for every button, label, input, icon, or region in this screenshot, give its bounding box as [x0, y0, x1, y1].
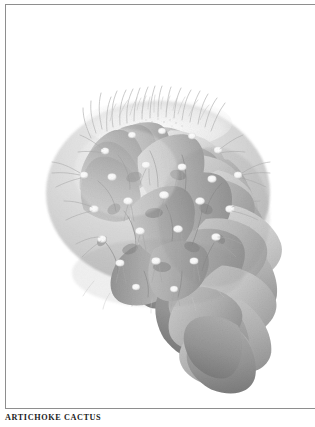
areole: [132, 284, 140, 290]
areole: [116, 260, 124, 267]
frame-rule-bottom: [5, 408, 315, 409]
areole: [80, 172, 88, 178]
plate-caption: ARTICHOKE CACTUS: [5, 413, 305, 423]
artichoke-cactus-drawing: [6, 5, 314, 407]
areole: [195, 197, 204, 204]
areole: [135, 227, 144, 234]
areole: [188, 133, 196, 139]
areole: [123, 197, 132, 204]
areole: [170, 286, 178, 292]
areole: [152, 258, 161, 265]
areole: [173, 225, 182, 232]
botanical-plate: ARTICHOKE CACTUS: [0, 0, 315, 427]
areole: [158, 128, 166, 134]
areole: [108, 174, 117, 181]
areole: [190, 258, 198, 265]
areole: [214, 147, 222, 153]
areole: [234, 172, 242, 178]
areole: [178, 164, 186, 171]
areole: [142, 162, 150, 169]
cactus-body-group: [46, 86, 291, 405]
illustration-area: [6, 5, 314, 407]
areole: [208, 176, 217, 183]
lower-shading-wash: [72, 239, 244, 307]
areole: [128, 132, 136, 138]
areole: [159, 191, 169, 199]
areole: [98, 236, 107, 243]
